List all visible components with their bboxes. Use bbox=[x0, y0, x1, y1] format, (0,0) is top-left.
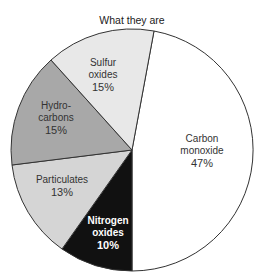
label-hydrocarbons: Hydro- carbons 15% bbox=[28, 100, 84, 136]
label-nitrogen-oxides: Nitrogen oxides 10% bbox=[84, 215, 132, 251]
label-sulfur-oxides: Sulfur oxides 15% bbox=[70, 57, 136, 93]
label-particulates: Particulates 13% bbox=[26, 174, 98, 198]
label-carbon-monoxide: Carbon monoxide 47% bbox=[168, 133, 236, 169]
